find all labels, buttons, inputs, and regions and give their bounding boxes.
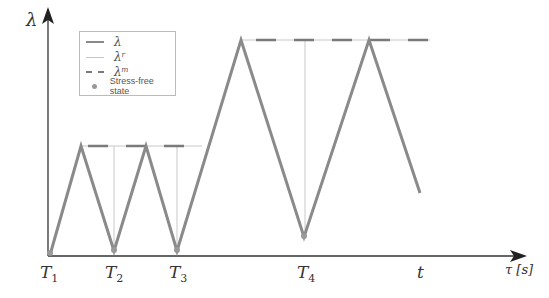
tick-t3: T3 (169, 262, 187, 285)
tick-t4: T4 (297, 262, 315, 285)
dashed-line-icon (86, 71, 104, 73)
solid-line-icon (86, 41, 104, 43)
legend-item-stress-free: Stress-free state (86, 79, 175, 93)
y-axis-label: λ (26, 9, 37, 30)
tick-t2: T2 (105, 262, 123, 285)
thin-line-icon (86, 57, 104, 58)
tick-t1: T1 (40, 262, 58, 285)
x-axis-label: τ [s] (505, 262, 533, 277)
legend: λ λʳ λᵐ Stress-free state (79, 31, 176, 96)
legend-item-lambda: λ (86, 35, 122, 49)
dot-icon (92, 84, 97, 89)
legend-item-lambda-r: λʳ (86, 50, 126, 64)
tick-t: t (417, 262, 424, 282)
